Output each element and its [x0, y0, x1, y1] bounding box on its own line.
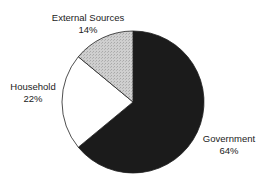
label-government: Government 64% — [203, 133, 255, 157]
label-name: External Sources — [52, 12, 124, 24]
label-name: Household — [10, 81, 55, 93]
label-household: Household 22% — [10, 81, 55, 105]
label-pct: 14% — [52, 24, 124, 36]
label-external-sources: External Sources 14% — [52, 12, 124, 36]
label-pct: 64% — [203, 145, 255, 157]
label-pct: 22% — [10, 93, 55, 105]
label-name: Government — [203, 133, 255, 145]
